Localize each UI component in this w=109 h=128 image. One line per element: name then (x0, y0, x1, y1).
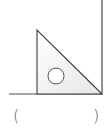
answer-paren-close: ) (93, 107, 99, 125)
set-square-triangle (37, 30, 102, 94)
answer-paren-open: ( (13, 107, 19, 125)
set-square-hole (48, 68, 64, 84)
